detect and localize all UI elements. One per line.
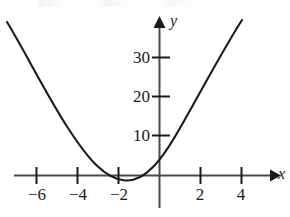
x-tick-label--4: −4 [57,186,99,203]
x-tick-label--6: −6 [16,186,58,203]
y-tick-label-30: 30 [104,49,150,66]
x-axis-label: x [278,166,285,182]
x-tick-label-4: 4 [225,186,257,203]
x-tick-label--2: −2 [98,186,140,203]
y-axis-label: y [170,13,177,29]
y-tick-label-10: 10 [104,127,150,144]
y-axis-arrowhead [154,16,166,28]
y-tick-label-20: 20 [104,88,150,105]
graph-figure: x y −6 −4 −2 2 4 30 20 10 [0,0,290,217]
y-axis-ticks [152,58,170,136]
x-tick-label-2: 2 [184,186,216,203]
